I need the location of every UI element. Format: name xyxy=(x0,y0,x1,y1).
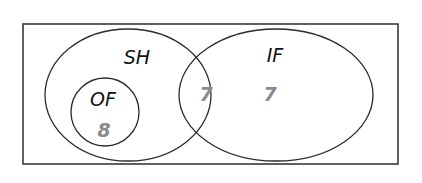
region-of-count: 8 xyxy=(97,119,110,141)
set-if-label: IF xyxy=(267,44,285,66)
region-if-only-count: 7 xyxy=(263,83,277,105)
set-sh-label: SH xyxy=(124,46,150,68)
venn-diagram: SH IF OF 8 7 7 xyxy=(0,0,422,183)
set-of-label: OF xyxy=(90,88,117,110)
region-sh-if-intersection-count: 7 xyxy=(199,83,213,105)
